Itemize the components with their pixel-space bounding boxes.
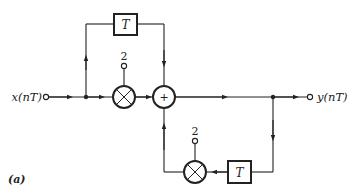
output-junction-dot (271, 95, 275, 99)
figure-label: (a) (8, 173, 26, 186)
output-terminal-icon (307, 94, 312, 99)
bottom-coefficient-label: 2 (192, 125, 199, 138)
block-diagram: 2 + T T 2 x(nT) y(nT) (a) (0, 0, 354, 194)
top-delay-label: T (121, 18, 130, 32)
top-coefficient-label: 2 (121, 50, 128, 63)
top-multiplier-icon (113, 86, 135, 108)
bottom-multiplier-icon (184, 161, 206, 183)
adder-symbol: + (159, 91, 168, 104)
input-junction-dot (84, 95, 88, 99)
feedback-path (164, 97, 273, 172)
top-coefficient-terminal-icon (121, 63, 126, 68)
input-label: x(nT) (11, 90, 42, 104)
bottom-coefficient-terminal-icon (192, 138, 197, 143)
input-terminal-icon (43, 94, 48, 99)
bottom-delay-label: T (235, 166, 244, 180)
output-label: y(nT) (316, 90, 348, 104)
